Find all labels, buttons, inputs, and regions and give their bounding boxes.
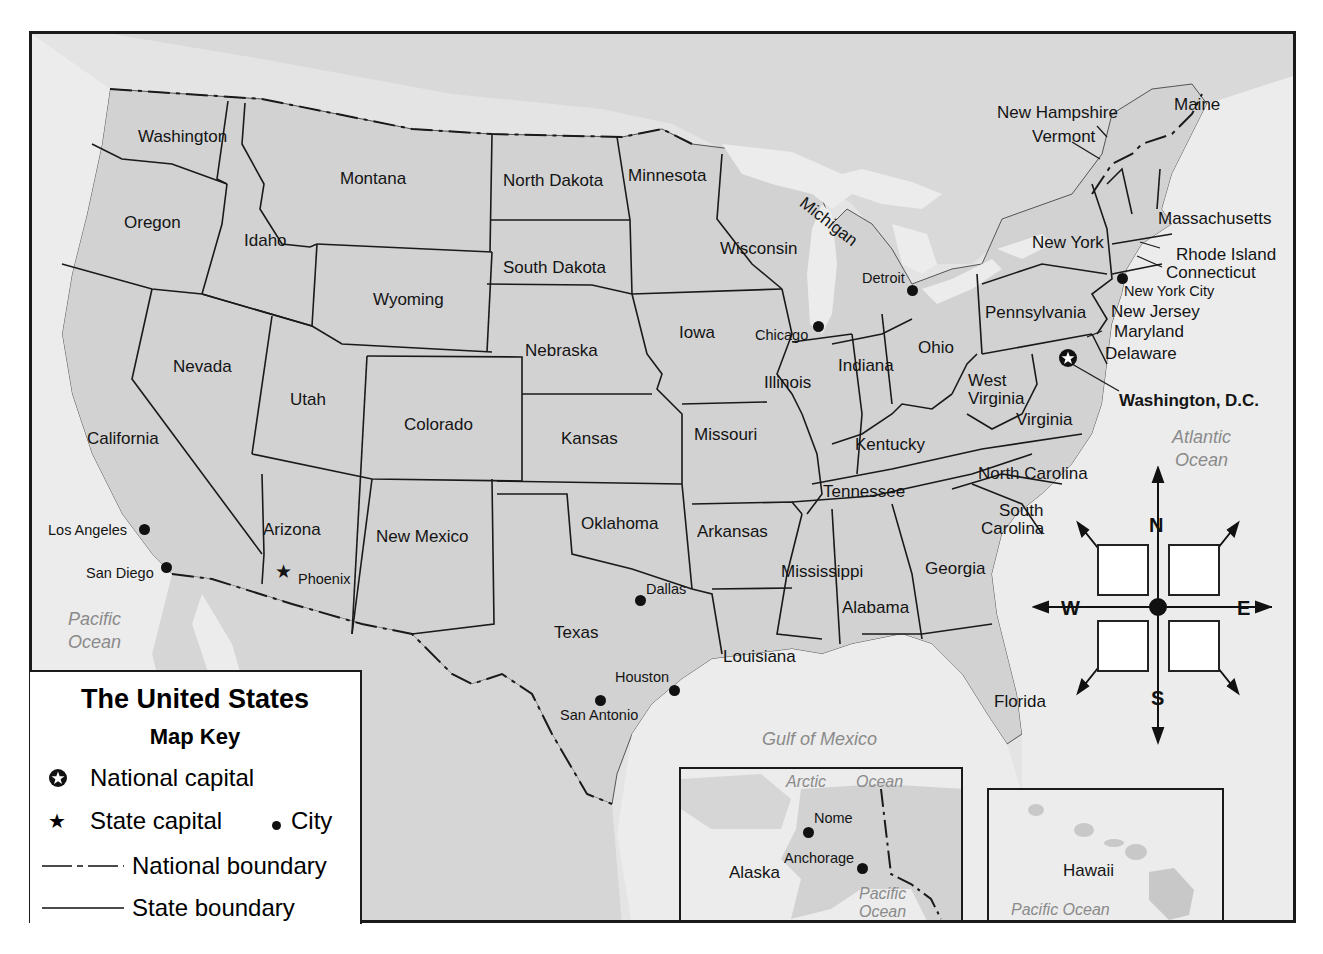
nome-dot[interactable] — [803, 827, 814, 838]
capital-label-phoenix: Phoenix — [298, 572, 350, 587]
state-label-kansas[interactable]: Kansas — [561, 430, 618, 447]
city-dot-houston[interactable] — [669, 685, 680, 696]
hawaii-pacific-label: Pacific Ocean — [1011, 900, 1110, 921]
city-dot-chicago[interactable] — [813, 321, 824, 332]
state-label-virginia[interactable]: Virginia — [968, 390, 1024, 407]
state-label-vermont[interactable]: Vermont — [1032, 128, 1095, 145]
state-label-wyoming[interactable]: Wyoming — [373, 291, 444, 308]
state-label-utah[interactable]: Utah — [290, 391, 326, 408]
legend-state-capital: State capital — [90, 807, 222, 835]
water-label-pacific-ocean: Pacific Ocean — [68, 608, 121, 655]
state-label-delaware[interactable]: Delaware — [1105, 345, 1177, 362]
arctic-ocean-label: Ocean — [856, 772, 903, 793]
state-label-illinois[interactable]: Illinois — [764, 374, 811, 391]
state-label-texas[interactable]: Texas — [554, 624, 598, 641]
state-label-missouri[interactable]: Missouri — [694, 426, 757, 443]
state-label-idaho[interactable]: Idaho — [244, 232, 287, 249]
city-icon — [272, 821, 281, 830]
national-capital-star-icon[interactable] — [1058, 348, 1078, 368]
state-label-massachusetts[interactable]: Massachusetts — [1158, 210, 1271, 227]
state-label-north-dakota[interactable]: North Dakota — [503, 172, 603, 189]
city-label-new-york-city: New York City — [1124, 284, 1214, 299]
state-label-iowa[interactable]: Iowa — [679, 324, 715, 341]
compass-east: E — [1237, 597, 1250, 620]
state-label-nevada[interactable]: Nevada — [173, 358, 232, 375]
state-label-montana[interactable]: Montana — [340, 170, 406, 187]
state-label-kentucky[interactable]: Kentucky — [855, 436, 925, 453]
state-label-new-hampshire[interactable]: New Hampshire — [997, 104, 1118, 121]
compass-box-nw[interactable] — [1097, 544, 1149, 596]
city-dot-dallas[interactable] — [635, 595, 646, 606]
state-boundary-icon — [42, 906, 124, 910]
compass-west: W — [1061, 597, 1080, 620]
alaska-label: Alaska — [729, 864, 780, 881]
legend-city: City — [291, 807, 332, 835]
state-label-washington[interactable]: Washington — [138, 128, 227, 145]
city-label-san-antonio: San Antonio — [560, 708, 638, 723]
national-capital-label: Washington, D.C. — [1119, 392, 1259, 409]
state-label-oklahoma[interactable]: Oklahoma — [581, 515, 658, 532]
legend-state-boundary: State boundary — [132, 894, 295, 922]
city-label-houston: Houston — [615, 670, 669, 685]
state-label-mississippi[interactable]: Mississippi — [781, 563, 863, 580]
anchorage-dot[interactable] — [857, 863, 868, 874]
nome-label: Nome — [814, 811, 853, 826]
city-label-chicago: Chicago — [755, 328, 808, 343]
state-label-south-dakota[interactable]: South Dakota — [503, 259, 606, 276]
state-label-south[interactable]: South — [999, 502, 1043, 519]
state-capital-star-icon[interactable]: ★ — [275, 562, 292, 581]
state-label-connecticut[interactable]: Connecticut — [1166, 264, 1256, 281]
city-label-san-diego: San Diego — [86, 566, 154, 581]
city-label-dallas: Dallas — [646, 582, 686, 597]
state-label-north-carolina[interactable]: North Carolina — [978, 465, 1088, 482]
state-label-georgia[interactable]: Georgia — [925, 560, 985, 577]
state-label-carolina[interactable]: Carolina — [981, 520, 1044, 537]
alaska-inset: Arctic Ocean Pacific Ocean Alaska Nome A… — [679, 767, 963, 923]
city-label-detroit: Detroit — [862, 271, 905, 286]
state-label-colorado[interactable]: Colorado — [404, 416, 473, 433]
state-label-virginia[interactable]: Virginia — [1016, 411, 1072, 428]
legend-national-capital: National capital — [90, 764, 254, 792]
city-dot-los-angeles[interactable] — [139, 524, 150, 535]
city-label-los-angeles: Los Angeles — [48, 523, 127, 538]
water-label-gulf-of-mexico: Gulf of Mexico — [762, 728, 877, 751]
hawaii-inset: Hawaii Pacific Ocean — [987, 788, 1224, 923]
compass-box-ne[interactable] — [1168, 544, 1220, 596]
state-label-indiana[interactable]: Indiana — [838, 357, 894, 374]
state-capital-icon: ★ — [48, 809, 68, 833]
state-label-nebraska[interactable]: Nebraska — [525, 342, 598, 359]
state-label-california[interactable]: California — [87, 430, 159, 447]
city-dot-detroit[interactable] — [907, 285, 918, 296]
state-label-alabama[interactable]: Alabama — [842, 599, 909, 616]
city-dot-san-antonio[interactable] — [595, 695, 606, 706]
national-capital-icon — [48, 768, 68, 788]
state-label-new-york[interactable]: New York — [1032, 234, 1104, 251]
compass-north: N — [1149, 514, 1163, 537]
hawaii-label: Hawaii — [1063, 862, 1114, 879]
state-label-ohio[interactable]: Ohio — [918, 339, 954, 356]
state-label-new-mexico[interactable]: New Mexico — [376, 528, 469, 545]
compass-box-sw[interactable] — [1097, 620, 1149, 672]
map-key-title: Map Key — [30, 724, 360, 750]
legend-national-boundary: National boundary — [132, 852, 327, 880]
state-label-rhode-island[interactable]: Rhode Island — [1176, 246, 1276, 263]
national-boundary-icon — [42, 864, 124, 868]
map-title: The United States — [30, 684, 360, 715]
state-label-wisconsin[interactable]: Wisconsin — [720, 240, 797, 257]
compass-south: S — [1151, 687, 1164, 710]
compass-box-se[interactable] — [1168, 620, 1220, 672]
state-label-louisiana[interactable]: Louisiana — [723, 648, 796, 665]
state-label-new-jersey[interactable]: New Jersey — [1111, 303, 1200, 320]
alaska-pacific-label: Pacific Ocean — [859, 885, 906, 920]
city-dot-san-diego[interactable] — [161, 562, 172, 573]
state-label-florida[interactable]: Florida — [994, 693, 1046, 710]
state-label-maine[interactable]: Maine — [1174, 96, 1220, 113]
state-label-tennessee[interactable]: Tennessee — [823, 483, 905, 500]
state-label-arizona[interactable]: Arizona — [263, 521, 321, 538]
state-label-arkansas[interactable]: Arkansas — [697, 523, 768, 540]
state-label-minnesota[interactable]: Minnesota — [628, 167, 706, 184]
state-label-pennsylvania[interactable]: Pennsylvania — [985, 304, 1086, 321]
state-label-maryland[interactable]: Maryland — [1114, 323, 1184, 340]
state-label-oregon[interactable]: Oregon — [124, 214, 181, 231]
state-label-west[interactable]: West — [968, 372, 1006, 389]
